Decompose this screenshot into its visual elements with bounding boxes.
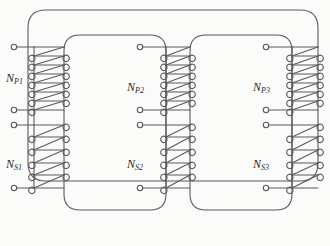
- left-limb-windings: [17, 47, 69, 194]
- label-ns3-base: N: [253, 157, 261, 171]
- terminal-ns1-bottom[interactable]: [11, 185, 16, 190]
- right-window-path: [190, 35, 292, 210]
- label-ns3-sub: S3: [261, 163, 269, 172]
- winding-np1: [29, 47, 70, 116]
- winding-ns1: [29, 124, 70, 193]
- label-np1-base: N: [6, 71, 14, 85]
- terminal-np3-top[interactable]: [263, 44, 268, 49]
- outer-core-path: [28, 10, 318, 181]
- label-ns3: NS3: [253, 157, 269, 172]
- transformer-diagram: NP1 NS1 NP2 NS2 NP3 NS3: [0, 0, 330, 246]
- terminal-np3-bottom[interactable]: [263, 107, 268, 112]
- label-np3: NP3: [253, 80, 270, 95]
- terminal-np1-top[interactable]: [11, 44, 16, 49]
- label-ns1-sub: S1: [14, 163, 22, 172]
- label-ns1-base: N: [6, 157, 14, 171]
- terminal-ns2-top[interactable]: [137, 122, 142, 127]
- label-np3-sub: P3: [261, 86, 270, 95]
- terminal-ns2-bottom[interactable]: [137, 185, 142, 190]
- terminal-np1-bottom[interactable]: [11, 107, 16, 112]
- label-ns2-sub: S2: [135, 163, 143, 172]
- label-ns2-base: N: [127, 157, 135, 171]
- core-and-windings-drawing: [0, 0, 330, 246]
- label-np1: NP1: [6, 71, 23, 86]
- label-np2-sub: P2: [135, 86, 144, 95]
- label-np2: NP2: [127, 80, 144, 95]
- middle-limb-windings: [143, 47, 195, 194]
- label-ns2: NS2: [127, 157, 143, 172]
- terminal-np2-bottom[interactable]: [137, 107, 142, 112]
- terminal-ns3-bottom[interactable]: [263, 185, 268, 190]
- terminal-ns3-top[interactable]: [263, 122, 268, 127]
- label-ns1: NS1: [6, 157, 22, 172]
- right-limb-windings: [269, 47, 323, 194]
- label-np2-base: N: [127, 80, 135, 94]
- label-np1-sub: P1: [14, 77, 23, 86]
- label-np3-base: N: [253, 80, 261, 94]
- terminal-ns1-top[interactable]: [11, 122, 16, 127]
- terminal-np2-top[interactable]: [137, 44, 142, 49]
- left-window-path: [64, 35, 166, 210]
